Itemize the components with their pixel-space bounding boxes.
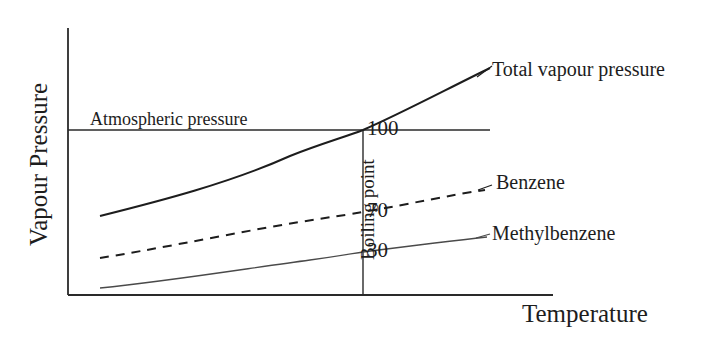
series-label-benzene: Benzene — [496, 172, 565, 192]
series-label-total-vapour-pressure: Total vapour pressure — [492, 59, 665, 79]
callout-leader-benzene — [478, 185, 492, 190]
series-line-methylbenzene — [100, 237, 487, 288]
value-mark-benzene: 70 — [367, 200, 388, 221]
series-label-methylbenzene: Methylbenzene — [492, 223, 615, 243]
atmospheric-pressure-label: Atmospheric pressure — [90, 110, 247, 128]
vapour-pressure-chart: Vapour Pressure Temperature Atmospheric … — [0, 0, 718, 344]
callout-leader-total — [477, 66, 492, 77]
y-axis-title: Vapour Pressure — [26, 65, 51, 265]
value-mark-total-vapour-pressure: 100 — [367, 118, 399, 139]
x-axis-title: Temperature — [522, 301, 648, 326]
series-line-total-vapour-pressure — [100, 68, 490, 216]
value-mark-methylbenzene: 30 — [367, 240, 388, 261]
